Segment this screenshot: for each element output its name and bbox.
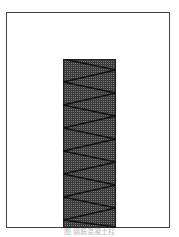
figure-caption: 图 钢筋混凝土柱 <box>0 228 179 237</box>
zigzag-reinforcement-lines <box>63 59 116 228</box>
